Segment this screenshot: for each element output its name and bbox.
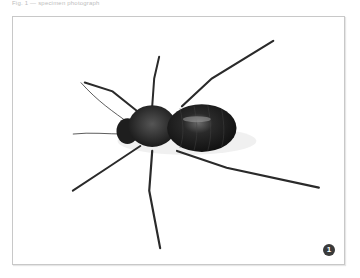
- figure-caption: Fig. 1 — specimen photograph: [12, 0, 100, 6]
- figure-number-badge: 1: [323, 244, 335, 256]
- insect-photo: [13, 17, 344, 264]
- figure-frame: 1: [12, 16, 345, 265]
